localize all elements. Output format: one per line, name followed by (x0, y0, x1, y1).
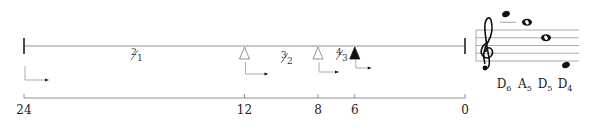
music-staff (476, 10, 579, 71)
treble-clef-icon (481, 18, 492, 70)
arrow-icon (246, 62, 269, 76)
note-labels: D6A5D5D4 (497, 77, 573, 93)
filled-note-icon (501, 10, 511, 19)
ratio-denominator: 3 (342, 53, 348, 63)
filled-note-icon (561, 61, 571, 70)
arrows (25, 60, 372, 82)
axis-ticks: 2412860 (16, 94, 468, 117)
axis-tick-label: 8 (314, 103, 322, 117)
ratio-denominator: 1 (137, 53, 143, 63)
hollow-triangle-marker (313, 47, 323, 59)
axis-tick-label: 12 (237, 103, 252, 117)
note-label: D6 (497, 77, 512, 93)
ratio-label: 21 (131, 47, 143, 63)
note-label: D5 (538, 77, 553, 93)
arrow-icon (25, 66, 49, 82)
note-label: D4 (558, 77, 573, 93)
arrow-icon (356, 60, 372, 70)
filled-triangle-marker (350, 47, 360, 59)
axis-tick-label: 24 (16, 103, 32, 117)
notes (501, 10, 571, 70)
hollow-triangle-marker (240, 47, 250, 59)
note-label: A5 (517, 77, 532, 93)
whole-note-icon (522, 19, 532, 26)
axis-tick-label: 0 (461, 103, 469, 117)
axis-tick-label: 6 (351, 103, 359, 117)
ratio-label: 43 (336, 47, 348, 63)
diagram: 2412860 213243 D6A5D5D4 (0, 0, 598, 130)
arrow-icon (319, 62, 339, 74)
ratio-denominator: 2 (287, 56, 293, 66)
ratio-label: 32 (281, 50, 293, 66)
whole-note-icon (541, 34, 551, 41)
